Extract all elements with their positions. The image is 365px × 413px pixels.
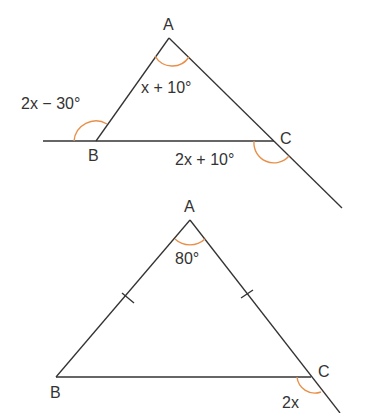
angle-arc-a2 — [175, 239, 205, 245]
vertex-label-b2: B — [50, 385, 61, 401]
angle-arc-a1 — [155, 56, 189, 66]
angle-label-c2: 2x — [282, 395, 299, 411]
tick-mark-ac — [241, 290, 253, 298]
angle-label-a2: 80° — [175, 251, 199, 267]
vertex-label-a2: A — [184, 199, 195, 215]
vertex-label-c1: C — [280, 131, 292, 147]
figure-2 — [56, 220, 340, 413]
angle-label-b1: 2x − 30° — [21, 96, 80, 112]
vertex-label-c2: C — [318, 364, 330, 380]
vertex-label-a1: A — [163, 17, 174, 33]
side-ac-extended — [190, 220, 340, 413]
side-ab — [56, 220, 190, 377]
side-ac-extended — [169, 38, 342, 208]
geometry-figures — [0, 0, 365, 413]
angle-label-c1: 2x + 10° — [175, 152, 234, 168]
angle-arc-b1 — [74, 121, 107, 141]
angle-label-a1: x + 10° — [141, 80, 191, 96]
vertex-label-b1: B — [88, 148, 99, 164]
